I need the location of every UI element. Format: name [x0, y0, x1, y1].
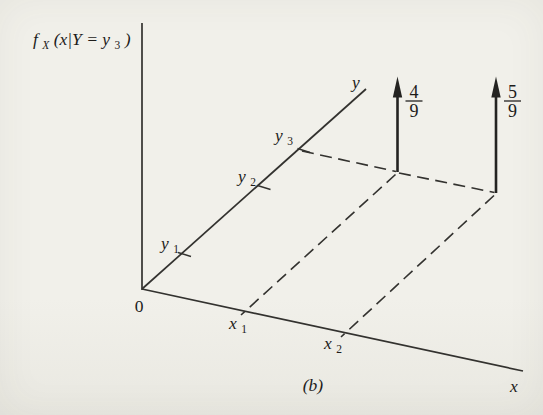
y2-tick-label: y 2: [236, 166, 256, 188]
x1-base: x: [228, 313, 237, 333]
vertical-axis-label-close: ): [124, 29, 131, 49]
dashed-line-impulse2-to-x2: [341, 196, 494, 338]
y-axis-label: y: [350, 72, 360, 92]
x2-tick-label: x 2: [323, 333, 342, 355]
y-axis-line: [142, 89, 366, 289]
impulse1-arrowhead-icon: [393, 77, 402, 98]
impulse2-numerator: 5: [508, 82, 517, 102]
figure-caption: (b): [303, 375, 324, 395]
impulse2-arrowhead-icon: [491, 77, 500, 98]
vertical-axis-label-f: f: [33, 29, 40, 49]
impulse1-denominator: 9: [410, 101, 419, 121]
vertical-axis-label-f-subscript: X: [41, 39, 50, 51]
dashed-line-impulse1-to-impulse2: [399, 173, 495, 193]
impulse1-numerator: 4: [410, 82, 419, 102]
impulse2-value-fraction: 5 9: [504, 82, 521, 121]
scanned-figure-page: 4 9 5 9 f X (x|Y = y 3 ) y x 0 y 1 y 2: [0, 0, 543, 415]
x2-sub: 2: [336, 343, 342, 355]
dashed-line-y3-to-impulse1: [302, 151, 396, 172]
impulse-arrow-x1-y3: [393, 77, 402, 173]
impulse-arrow-x2-y3: [491, 77, 500, 194]
y2-tick-mark: [258, 186, 271, 190]
y1-sub: 1: [173, 243, 179, 255]
x2-base: x: [323, 333, 332, 353]
x-axis-line: [142, 289, 523, 371]
impulse1-value-fraction: 4 9: [406, 82, 423, 121]
y3-tick-label: y 3: [273, 125, 293, 147]
x-axis-label: x: [509, 376, 518, 396]
y1-base: y: [159, 233, 169, 253]
x1-sub: 1: [241, 323, 247, 335]
origin-label: 0: [135, 296, 144, 316]
y3-sub: 3: [287, 135, 293, 147]
impulse2-denominator: 9: [508, 101, 517, 121]
vertical-axis-label: f X (x|Y = y 3 ): [33, 29, 131, 53]
x1-tick-label: x 1: [228, 313, 247, 335]
vertical-axis-label-main: (x|Y = y: [54, 29, 111, 49]
y1-tick-label: y 1: [159, 233, 179, 255]
y2-base: y: [236, 166, 246, 186]
figure-canvas: 4 9 5 9 f X (x|Y = y 3 ) y x 0 y 1 y 2: [0, 0, 543, 415]
vertical-axis-label-y-subscript: 3: [115, 39, 121, 51]
dashed-line-impulse1-to-x1: [241, 175, 396, 316]
y3-base: y: [273, 125, 283, 145]
y2-sub: 2: [250, 176, 256, 188]
